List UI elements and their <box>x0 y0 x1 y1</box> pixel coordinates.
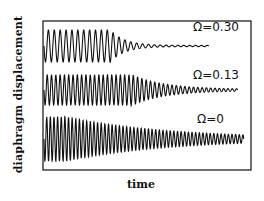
x-axis-label: time <box>127 178 155 191</box>
trace-1 <box>44 30 209 62</box>
series-label-omega-013: Ω=0.13 <box>193 68 239 82</box>
traces <box>44 30 244 161</box>
series-label-omega-0: Ω=0 <box>197 112 224 126</box>
series-label-omega-030: Ω=0.30 <box>193 20 239 34</box>
y-axis-label: diaphragm displacement <box>12 15 25 175</box>
